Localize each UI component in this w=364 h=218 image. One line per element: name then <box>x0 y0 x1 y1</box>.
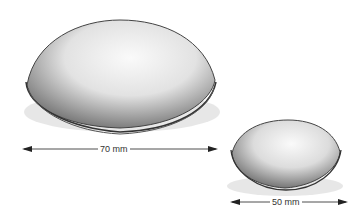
domes-drawing <box>0 0 364 218</box>
large-dome <box>24 20 220 134</box>
small-dome-label: 50 mm <box>270 197 302 207</box>
large-dome-label: 70 mm <box>98 144 130 154</box>
dome-illustration: 70 mm 50 mm <box>0 0 364 218</box>
small-dome <box>227 120 343 196</box>
